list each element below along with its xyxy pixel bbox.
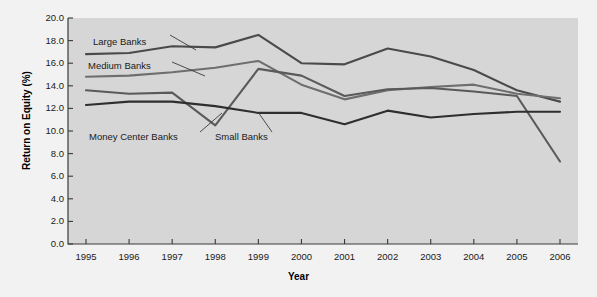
chart-figure: 0.02.04.06.08.010.012.014.016.018.020.0 … [0, 0, 597, 297]
x-tick-label: 1997 [150, 252, 194, 262]
x-tick-label: 2005 [495, 252, 539, 262]
x-tick-label: 1996 [107, 252, 151, 262]
x-tick-label: 1995 [64, 252, 108, 262]
y-axis-title: Return on Equity (%) [21, 41, 32, 201]
y-tick-label: 0.0 [20, 239, 64, 249]
series-line-small-banks [86, 102, 560, 125]
x-axis-title: Year [0, 271, 597, 282]
x-tick-label: 2004 [452, 252, 496, 262]
x-tick-label: 2002 [366, 252, 410, 262]
annotation-money-center-banks: Money Center Banks [89, 131, 178, 142]
y-tick-label: 2.0 [20, 216, 64, 226]
annotation-medium-banks: Medium Banks [88, 60, 151, 71]
x-tick-label: 2003 [409, 252, 453, 262]
x-tick-label: 2001 [323, 252, 367, 262]
x-tick-label: 2006 [538, 252, 582, 262]
data-series-lines [86, 35, 560, 162]
x-tick-label: 2000 [279, 252, 323, 262]
leader-line [170, 35, 196, 50]
annotation-small-banks: Small Banks [215, 131, 268, 142]
y-tick-label: 20.0 [20, 13, 64, 23]
x-tick-label: 1999 [236, 252, 280, 262]
leader-line [258, 112, 272, 132]
series-line-money-center-banks [86, 69, 560, 162]
x-tick-label: 1998 [193, 252, 237, 262]
annotation-large-banks: Large Banks [93, 36, 146, 47]
